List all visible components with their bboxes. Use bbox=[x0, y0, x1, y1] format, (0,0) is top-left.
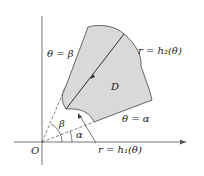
region-d bbox=[62, 25, 152, 122]
ray-alpha-label: θ = α bbox=[122, 113, 150, 124]
origin-label: O bbox=[31, 145, 39, 156]
x-axis-arrow-icon bbox=[180, 140, 186, 145]
inner-curve-label: r = h₁(θ) bbox=[98, 144, 142, 155]
polar-region-diagram: θ = β r = h₂(θ) D θ = α β α O r = h₁(θ) bbox=[0, 0, 204, 176]
outer-curve-label: r = h₂(θ) bbox=[138, 45, 182, 56]
angle-beta-label: β bbox=[58, 118, 65, 129]
ray-beta-dashed bbox=[42, 86, 66, 142]
ray-alpha-dashed bbox=[42, 122, 94, 142]
angle-alpha-label: α bbox=[76, 129, 83, 140]
region-label: D bbox=[110, 81, 119, 92]
ray-beta-label: θ = β bbox=[47, 48, 74, 59]
angle-alpha-arc bbox=[70, 131, 72, 142]
